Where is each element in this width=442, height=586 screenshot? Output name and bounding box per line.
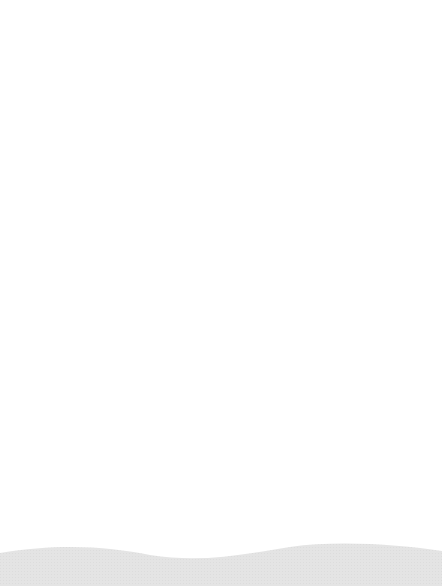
lined-paper: [0, 0, 442, 586]
bottom-wave-shadow: [0, 541, 442, 586]
